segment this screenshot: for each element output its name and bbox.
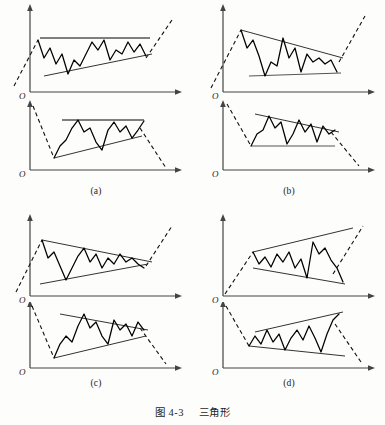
chart-c-bottom: O	[0, 302, 192, 380]
panel-label-a: (a)	[0, 186, 192, 196]
figure-caption: 图 4-3 三角形	[0, 404, 385, 419]
pattern-b-top	[211, 16, 365, 88]
origin-label-c-bottom: O	[19, 367, 26, 377]
chart-d-bottom: O	[193, 302, 385, 380]
pattern-c-bottom	[32, 306, 166, 364]
pattern-d-bottom	[226, 306, 361, 362]
panel-group-c: O	[0, 212, 192, 396]
pattern-a-top	[14, 20, 172, 86]
pattern-d-top	[225, 226, 363, 294]
chart-c-top: O	[0, 212, 192, 308]
pattern-b-bottom	[227, 104, 359, 166]
axes-a-top: O	[19, 4, 182, 101]
axes-c-top: O	[19, 214, 182, 305]
panel-label-d: (d)	[193, 378, 385, 388]
axes-c-bottom: O	[19, 302, 182, 377]
panel-group-a: O	[0, 0, 192, 208]
panel-label-c: (c)	[0, 378, 192, 388]
axes-a-bottom: O	[19, 100, 182, 179]
figure-caption-title: 三角形	[199, 406, 231, 418]
origin-label-b-bottom: O	[212, 169, 219, 179]
panel-group-d: O	[193, 212, 385, 396]
chart-a-bottom: O	[0, 100, 192, 182]
axes-d-bottom: O	[212, 302, 375, 377]
panel-grid: O	[0, 0, 385, 396]
axes-b-bottom: O	[212, 100, 375, 179]
chart-a-top: O	[0, 0, 192, 104]
figure-caption-number: 图 4-3	[155, 407, 184, 418]
pattern-c-top	[16, 226, 172, 292]
axes-b-top: O	[212, 4, 375, 101]
panel-label-b: (b)	[193, 186, 385, 196]
origin-label-a-bottom: O	[19, 169, 26, 179]
chart-d-top: O	[193, 212, 385, 308]
axes-d-top: O	[212, 214, 375, 305]
chart-b-bottom: O	[193, 100, 385, 182]
pattern-a-bottom	[33, 106, 166, 168]
panel-group-b: O	[193, 0, 385, 208]
origin-label-d-bottom: O	[212, 367, 219, 377]
figure-4-3-triangles: O	[0, 0, 385, 425]
chart-b-top: O	[193, 0, 385, 104]
